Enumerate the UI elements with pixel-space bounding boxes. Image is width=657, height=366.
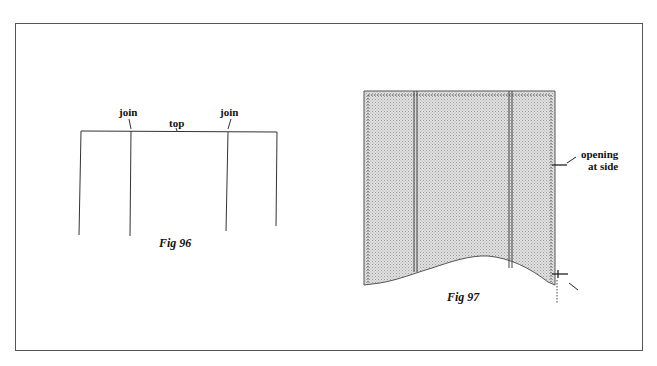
fig97-caption: Fig 97 bbox=[447, 290, 479, 305]
fig96-top-label: top bbox=[169, 117, 184, 129]
fig96-join-left-label: join bbox=[119, 106, 137, 118]
fig97-diagram bbox=[364, 91, 578, 303]
fig97-opening-label-line1: opening bbox=[581, 148, 618, 160]
fig96-diagram bbox=[79, 119, 277, 236]
fig97-opening-label-line2: at side bbox=[588, 160, 618, 172]
figures-drawing bbox=[0, 0, 657, 366]
fig96-join-right-label: join bbox=[220, 106, 238, 118]
fig96-caption: Fig 96 bbox=[159, 236, 191, 251]
